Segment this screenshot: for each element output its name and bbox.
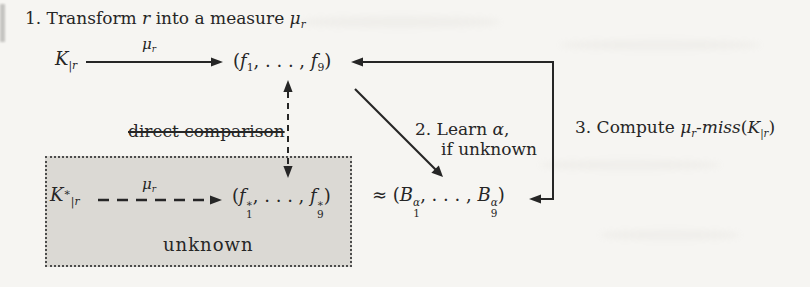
step2-line1: 2. Learn α,	[415, 120, 537, 140]
index-sub: 9	[317, 209, 324, 220]
paren: (	[233, 50, 240, 71]
index-sub: 1	[413, 208, 420, 219]
paren: )	[324, 185, 331, 206]
unknown-label: unknown	[163, 235, 254, 256]
transform-arrow	[86, 57, 223, 66]
mu-r-arrow-label-unknown: μr	[142, 176, 156, 193]
text-run: direct comparison	[128, 121, 285, 141]
var-f1-star: f	[239, 185, 246, 206]
diagram-canvas: 1. Transform r into a measure μr K|r μr …	[0, 0, 810, 287]
var-K: K	[747, 117, 760, 137]
dots: , . . . ,	[420, 184, 472, 205]
text-run: if unknown	[441, 139, 537, 159]
approx-symbol: ≈	[372, 184, 387, 205]
f-tuple-node: (f1, . . . , f9)	[233, 51, 331, 72]
paren: )	[324, 50, 331, 71]
dots: , . . . ,	[253, 185, 305, 206]
var-mu: μ	[680, 117, 691, 137]
dots: , . . . ,	[254, 50, 306, 71]
text-run: 2. Learn	[415, 119, 487, 139]
text-run: into a measure	[156, 8, 285, 28]
var-alpha: α	[493, 119, 504, 139]
var-mu: μ	[142, 35, 152, 53]
text-run: 3. Compute	[575, 117, 675, 137]
var-mu-sub: r	[301, 19, 306, 30]
var-mu: μ	[290, 8, 301, 28]
supsub: ∗9	[317, 198, 324, 220]
var-K: K	[55, 48, 68, 69]
index-sub: 1	[246, 209, 253, 220]
step3-label: 3. Compute μr-miss(K|r)	[575, 118, 775, 138]
arrows-layer	[0, 0, 810, 287]
text-run: unknown	[163, 234, 254, 255]
step2-label: 2. Learn α, if unknown	[415, 120, 537, 159]
var-f9-star: f	[310, 185, 317, 206]
index-sub: 9	[491, 208, 498, 219]
var-mu-sub: r	[152, 184, 156, 194]
paren: )	[498, 184, 505, 205]
mu-r-arrow-label: μr	[142, 36, 156, 53]
supsub: ∗1	[246, 198, 253, 220]
var-mu: μ	[142, 175, 152, 193]
step2-line2: if unknown	[415, 140, 537, 160]
direct-comparison-label: direct comparison	[128, 122, 285, 142]
paren: )	[768, 117, 775, 137]
var-K-sub: |r	[68, 59, 77, 72]
var-B9: B	[477, 184, 490, 205]
text-run: ,	[504, 119, 509, 139]
approx-tuple-node: ≈ (Bα1, . . . , Bα9)	[372, 185, 505, 219]
k-star-node: K∗|r	[50, 185, 80, 206]
var-K-star: K	[50, 184, 63, 205]
paren: (	[393, 184, 400, 205]
paren: (	[232, 185, 239, 206]
var-f1: f	[240, 50, 247, 71]
var-mu-sub: r	[152, 44, 156, 54]
var-K-star-sup: ∗	[63, 186, 70, 199]
var-r: r	[142, 8, 150, 28]
supsub: α9	[491, 197, 498, 219]
text-run: 1. Transform	[25, 8, 137, 28]
miss-function: miss	[702, 117, 741, 137]
step1-label: 1. Transform r into a measure μr	[25, 9, 306, 29]
var-K-star-sub: |r	[71, 195, 80, 208]
unknown-transform-dashed-arrow	[98, 195, 222, 204]
var-f1-sub: 1	[247, 61, 254, 74]
f-star-tuple-node: (f∗1, . . . , f∗9)	[232, 186, 331, 220]
k-restricted-node: K|r	[55, 49, 77, 70]
var-B1: B	[400, 184, 413, 205]
